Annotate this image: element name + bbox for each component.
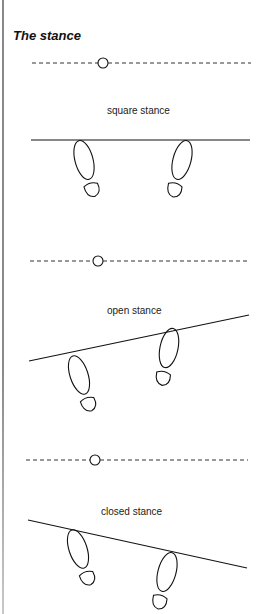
ball-target-line	[32, 58, 251, 68]
square-stance-figure	[31, 58, 251, 199]
ball-icon	[93, 256, 103, 266]
ball-target-line	[30, 256, 249, 266]
right-footprint-icon	[152, 327, 182, 387]
left-footprint-icon	[70, 138, 102, 199]
right-footprint-icon	[163, 138, 195, 199]
right-footprint-icon	[148, 550, 180, 611]
stance-line	[29, 315, 249, 361]
left-footprint-icon	[63, 527, 98, 588]
stance-line	[28, 520, 247, 568]
ball-target-line	[26, 455, 248, 465]
open-stance-figure	[29, 256, 249, 414]
closed-stance-figure	[26, 455, 248, 611]
stance-diagram	[0, 0, 264, 614]
left-footprint-icon	[64, 353, 99, 414]
ball-icon	[90, 455, 100, 465]
ball-icon	[98, 58, 108, 68]
